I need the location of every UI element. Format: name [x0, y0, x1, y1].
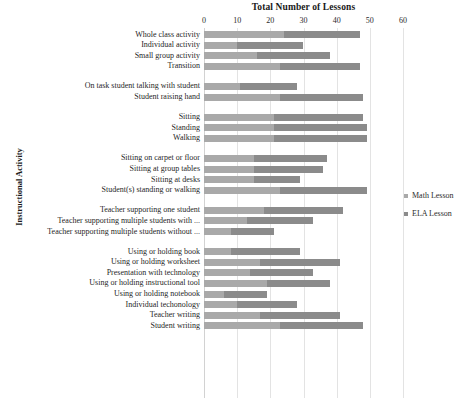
bar-segment-ela[interactable]	[274, 114, 364, 121]
y-category-label: Presentation with technology	[0, 269, 200, 277]
legend-item-ela[interactable]: ELA Lesson	[404, 209, 454, 218]
bar-segment-ela[interactable]	[267, 280, 330, 287]
bar-row[interactable]	[204, 176, 403, 183]
bar-segment-ela[interactable]	[260, 312, 340, 319]
bar-segment-math[interactable]	[204, 187, 280, 194]
bar-row[interactable]	[204, 217, 403, 224]
y-category-label: Teacher supporting multiple students wit…	[0, 228, 200, 236]
bar-segment-math[interactable]	[204, 322, 280, 329]
bar-segment-math[interactable]	[204, 248, 231, 255]
y-category-label: Transition	[0, 62, 200, 70]
bar-row[interactable]	[204, 83, 403, 90]
bar-segment-ela[interactable]	[224, 291, 267, 298]
bar-segment-math[interactable]	[204, 114, 274, 121]
bar-row[interactable]	[204, 94, 403, 101]
y-category-label: Sitting at desks	[0, 176, 200, 184]
bar-row[interactable]	[204, 301, 403, 308]
chart-container: Total Number of Lessons 0102030405060 Wh…	[0, 0, 469, 401]
bar-row[interactable]	[204, 312, 403, 319]
y-category-label: Individual techonology	[0, 301, 200, 309]
bar-row[interactable]	[204, 322, 403, 329]
bar-row[interactable]	[204, 135, 403, 142]
bar-segment-ela[interactable]	[280, 94, 363, 101]
y-category-label: Walking	[0, 134, 200, 142]
bar-row[interactable]	[204, 248, 403, 255]
bar-segment-math[interactable]	[204, 31, 284, 38]
bar-segment-math[interactable]	[204, 291, 224, 298]
bar-segment-math[interactable]	[204, 207, 264, 214]
bar-segment-math[interactable]	[204, 52, 257, 59]
x-tick-label-0: 0	[202, 16, 206, 25]
bar-row[interactable]	[204, 155, 403, 162]
legend-swatch-math-icon	[404, 194, 408, 198]
legend-item-math[interactable]: Math Lesson	[404, 191, 454, 200]
bar-row[interactable]	[204, 280, 403, 287]
bar-row[interactable]	[204, 291, 403, 298]
bar-segment-math[interactable]	[204, 259, 260, 266]
bar-row[interactable]	[204, 124, 403, 131]
bar-segment-math[interactable]	[204, 228, 231, 235]
y-category-label: Individual activity	[0, 41, 200, 49]
y-category-label: Sitting on carpet or floor	[0, 154, 200, 162]
y-category-label: Whole class activity	[0, 31, 200, 39]
bar-segment-math[interactable]	[204, 124, 274, 131]
bar-segment-math[interactable]	[204, 280, 267, 287]
bar-row[interactable]	[204, 187, 403, 194]
bar-segment-math[interactable]	[204, 42, 237, 49]
bar-segment-math[interactable]	[204, 83, 240, 90]
bar-segment-ela[interactable]	[231, 228, 274, 235]
bar-row[interactable]	[204, 63, 403, 70]
bar-row[interactable]	[204, 42, 403, 49]
chart-title: Total Number of Lessons	[204, 2, 403, 12]
bar-row[interactable]	[204, 259, 403, 266]
bar-segment-math[interactable]	[204, 155, 254, 162]
bar-row[interactable]	[204, 228, 403, 235]
bar-row[interactable]	[204, 52, 403, 59]
bar-segment-math[interactable]	[204, 176, 254, 183]
bar-segment-math[interactable]	[204, 63, 280, 70]
y-category-label: Teacher supporting one student	[0, 206, 200, 214]
bar-row[interactable]	[204, 207, 403, 214]
x-tick-label-10: 10	[233, 16, 241, 25]
bar-segment-ela[interactable]	[254, 155, 327, 162]
bar-segment-ela[interactable]	[250, 269, 313, 276]
bar-segment-ela[interactable]	[254, 176, 300, 183]
bar-segment-math[interactable]	[204, 301, 237, 308]
legend-label: Math Lesson	[412, 191, 454, 200]
bar-segment-math[interactable]	[204, 269, 250, 276]
bar-segment-ela[interactable]	[254, 166, 324, 173]
bar-segment-math[interactable]	[204, 217, 247, 224]
legend-label: ELA Lesson	[412, 209, 452, 218]
bar-segment-ela[interactable]	[257, 52, 330, 59]
y-category-label: Sitting	[0, 113, 200, 121]
bar-segment-ela[interactable]	[237, 42, 303, 49]
bar-row[interactable]	[204, 114, 403, 121]
bar-segment-ela[interactable]	[280, 322, 363, 329]
bar-segment-ela[interactable]	[264, 207, 344, 214]
plot-area	[204, 28, 403, 398]
bar-row[interactable]	[204, 269, 403, 276]
bar-segment-ela[interactable]	[260, 259, 340, 266]
bar-segment-math[interactable]	[204, 166, 254, 173]
bar-row[interactable]	[204, 166, 403, 173]
chart-legend: Math LessonELA Lesson	[404, 191, 454, 227]
bar-row[interactable]	[204, 31, 403, 38]
bar-segment-ela[interactable]	[280, 63, 360, 70]
bar-segment-ela[interactable]	[280, 187, 366, 194]
y-category-label: Standing	[0, 124, 200, 132]
x-axis-tick-labels: 0102030405060	[0, 16, 469, 27]
bar-segment-ela[interactable]	[231, 248, 301, 255]
bar-segment-ela[interactable]	[284, 31, 360, 38]
x-tick-label-60: 60	[399, 16, 407, 25]
bar-segment-ela[interactable]	[274, 124, 367, 131]
bar-segment-math[interactable]	[204, 94, 280, 101]
y-category-label: Teacher supporting multiple students wit…	[0, 217, 200, 225]
y-category-label: Student(s) standing or walking	[0, 186, 200, 194]
bar-segment-ela[interactable]	[247, 217, 313, 224]
bar-segment-math[interactable]	[204, 312, 260, 319]
y-category-label: Sitting at group tables	[0, 165, 200, 173]
bar-segment-math[interactable]	[204, 135, 274, 142]
bar-segment-ela[interactable]	[240, 83, 296, 90]
bar-segment-ela[interactable]	[274, 135, 367, 142]
bar-segment-ela[interactable]	[237, 301, 297, 308]
